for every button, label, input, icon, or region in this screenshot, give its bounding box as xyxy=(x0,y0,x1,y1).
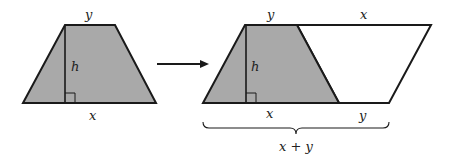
right-parallelogram: y x h x y xyxy=(203,7,431,123)
left-trapezoid: y h x xyxy=(23,7,156,123)
diagram: y h x y x h x y x + y xyxy=(0,0,449,159)
right-height-label: h xyxy=(251,59,259,74)
left-top-label: y xyxy=(84,7,93,22)
diagram-canvas: y h x y x h x y x + y xyxy=(0,0,449,159)
right-bottom-right-label: y xyxy=(358,108,367,123)
brace-icon xyxy=(203,122,389,134)
left-trapezoid-shape xyxy=(23,25,156,103)
right-top-right-label: x xyxy=(360,7,368,22)
left-bottom-label: x xyxy=(89,108,97,123)
brace-label: x + y xyxy=(279,139,313,154)
right-top-left-label: y xyxy=(266,7,275,22)
right-arrow-icon xyxy=(157,60,209,68)
right-bottom-left-label: x xyxy=(266,106,274,121)
left-height-label: h xyxy=(71,59,79,74)
